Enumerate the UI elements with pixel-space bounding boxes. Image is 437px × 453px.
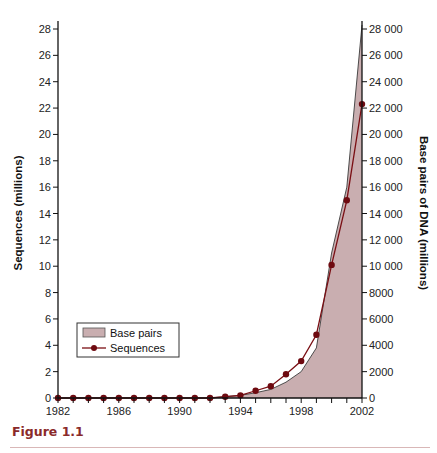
y-tick-label: 26 <box>39 49 51 61</box>
y-tick-label: 0 <box>45 392 51 404</box>
sequences-point-1995 <box>252 388 258 394</box>
x-tick-label: 1990 <box>167 405 191 417</box>
y2-tick-label: 18 000 <box>369 155 403 167</box>
x-tick-label: 2002 <box>350 405 374 417</box>
y2-tick-label: 14 000 <box>369 208 403 220</box>
sequences-point-2000 <box>328 262 334 268</box>
y2-tick-label: 26 000 <box>369 49 403 61</box>
y-tick-label: 16 <box>39 181 51 193</box>
y-axis-title: Sequences (millions) <box>12 155 24 270</box>
y2-tick-label: 24 000 <box>369 76 403 88</box>
sequences-point-2001 <box>344 197 350 203</box>
chart: 0246810121416182022242628020004000600080… <box>0 0 437 420</box>
y-tick-label: 22 <box>39 102 51 114</box>
y-tick-label: 20 <box>39 128 51 140</box>
y2-tick-label: 22 000 <box>369 102 403 114</box>
sequences-point-1996 <box>268 383 274 389</box>
x-tick-label: 1998 <box>289 405 313 417</box>
y2-tick-label: 12 000 <box>369 234 403 246</box>
y2-tick-label: 20 000 <box>369 128 403 140</box>
y2-tick-label: 10 000 <box>369 260 403 272</box>
figure-caption: Figure 1.1 <box>12 424 84 439</box>
y-tick-label: 24 <box>39 76 51 88</box>
y2-tick-label: 0 <box>369 392 375 404</box>
y2-tick-label: 16 000 <box>369 181 403 193</box>
legend-label-sequences: Sequences <box>110 342 166 354</box>
x-tick-label: 1982 <box>46 405 70 417</box>
y-tick-label: 28 <box>39 23 51 35</box>
y-tick-label: 14 <box>39 208 51 220</box>
legend-marker-swatch <box>91 345 97 351</box>
legend-area-swatch <box>83 328 105 337</box>
y-tick-label: 2 <box>45 366 51 378</box>
sequences-point-1997 <box>283 371 289 377</box>
y2-tick-label: 8000 <box>369 287 393 299</box>
sequences-point-1999 <box>313 332 319 338</box>
legend: Base pairs Sequences <box>77 323 179 357</box>
y-tick-label: 12 <box>39 234 51 246</box>
y-tick-label: 4 <box>45 339 51 351</box>
x-tick-label: 1986 <box>107 405 131 417</box>
x-tick-label: 1994 <box>228 405 252 417</box>
legend-label-base-pairs: Base pairs <box>110 327 162 339</box>
y2-tick-label: 4000 <box>369 339 393 351</box>
caption-divider <box>10 447 430 448</box>
y-tick-label: 18 <box>39 155 51 167</box>
y2-tick-label: 28 000 <box>369 23 403 35</box>
y-tick-label: 8 <box>45 287 51 299</box>
y2-axis-title: Base pairs of DNA (millions) <box>418 136 430 290</box>
y-tick-label: 10 <box>39 260 51 272</box>
y2-tick-label: 2000 <box>369 366 393 378</box>
sequences-point-1998 <box>298 358 304 364</box>
y2-tick-label: 6000 <box>369 313 393 325</box>
y-tick-label: 6 <box>45 313 51 325</box>
